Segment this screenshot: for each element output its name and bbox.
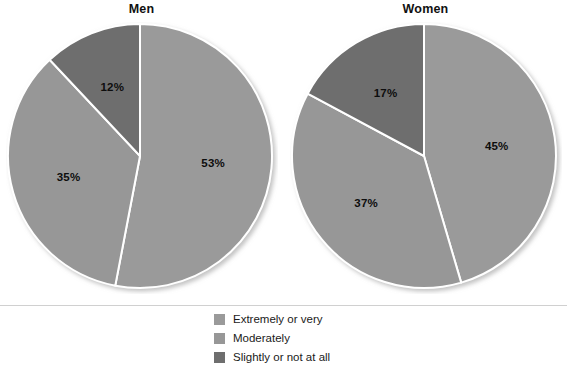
legend-divider <box>0 305 567 306</box>
pie-slice-label-women-moderately: 37% <box>354 197 378 209</box>
pie-chart-men <box>6 22 278 294</box>
chart-legend: Extremely or very Moderately Slightly or… <box>214 310 514 367</box>
legend-swatch-slightly-or-not-at-all <box>214 352 225 363</box>
legend-item-moderately: Moderately <box>214 329 514 347</box>
pie-panel-men: Men 53% 35% 12% <box>0 0 283 300</box>
pie-stage-men: 53% 35% 12% <box>6 22 278 294</box>
legend-swatch-extremely-or-very <box>214 314 225 325</box>
legend-label-slightly-or-not-at-all: Slightly or not at all <box>233 348 330 366</box>
legend-item-extremely-or-very: Extremely or very <box>214 310 514 328</box>
legend-swatch-moderately <box>214 333 225 344</box>
pie-title-women: Women <box>284 2 567 16</box>
pie-slice-label-men-moderately: 35% <box>57 171 81 183</box>
pie-slice-label-men-extremely: 53% <box>201 157 225 169</box>
charts-area: Men 53% 35% 12% Women <box>0 0 567 300</box>
pie-slice-label-women-slightly: 17% <box>374 87 398 99</box>
legend-label-extremely-or-very: Extremely or very <box>233 310 322 328</box>
pie-title-men: Men <box>0 2 283 16</box>
legend-item-slightly-or-not-at-all: Slightly or not at all <box>214 348 514 366</box>
pie-panel-women: Women 45% 37% 17% <box>284 0 567 300</box>
pie-slices-women <box>292 24 556 288</box>
pie-slices-men <box>8 24 272 288</box>
pie-chart-women <box>290 22 562 294</box>
pie-slice-label-women-extremely: 45% <box>485 140 509 152</box>
pie-stage-women: 45% 37% 17% <box>290 22 562 294</box>
legend-label-moderately: Moderately <box>233 329 290 347</box>
pie-slice-label-men-slightly: 12% <box>100 81 124 93</box>
